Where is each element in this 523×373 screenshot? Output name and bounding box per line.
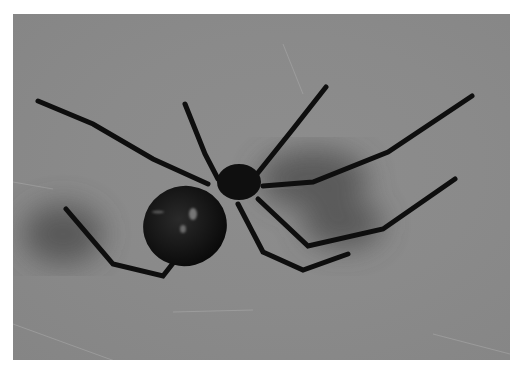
spider-photo: [13, 14, 510, 360]
spider-illustration: [13, 14, 510, 360]
spider-cephalothorax: [217, 164, 261, 200]
